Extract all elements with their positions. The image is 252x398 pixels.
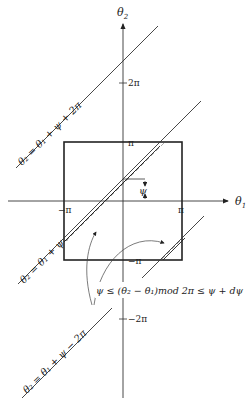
theta1-axis-label: θ1 <box>235 195 246 210</box>
band-condition-annotation: ψ ≤ (θ₂ − θ₁)mod 2π ≤ ψ + dψ <box>96 285 244 296</box>
label-line-upper: θ₂ = θ₁ + ψ + 2π <box>16 99 84 167</box>
tick-label-2pi: 2π <box>128 78 140 88</box>
tick-label-neg-2pi: −2π <box>128 314 147 324</box>
line-lower-b <box>142 216 204 278</box>
label-line-lower: θ₂ = θ₁ + ψ − 2π <box>21 327 89 395</box>
theta2-axis-label: θ2 <box>117 6 129 21</box>
label-line-central: θ₂ = θ₁ + ψ <box>18 237 66 285</box>
curved-arrow-to-central <box>87 232 96 305</box>
band-central <box>64 142 164 242</box>
tick-label-neg-pi-left: −π <box>58 205 72 215</box>
psi-label: ψ <box>139 185 147 196</box>
tick-label-pi-top: π <box>128 138 134 148</box>
tick-label-neg-pi-bottom: −π <box>128 256 142 266</box>
phase-diagram: θ2 θ1 2π −2π π π −π −π ψ θ₂ = θ₁ + ψ + 2… <box>0 0 252 398</box>
tick-label-pi-right: π <box>178 205 184 215</box>
